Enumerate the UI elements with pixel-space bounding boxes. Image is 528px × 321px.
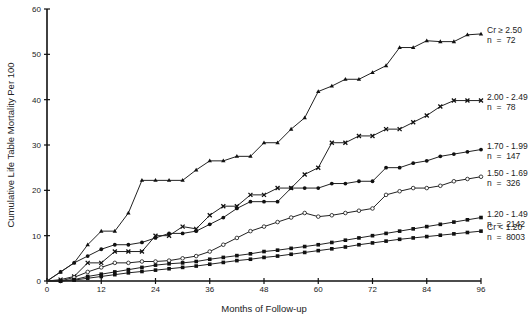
series-label-range: Cr ≥ 2.50 — [487, 25, 522, 35]
square-marker — [316, 249, 320, 253]
series-label-n: n = 8003 — [487, 232, 525, 242]
square-marker — [398, 237, 402, 241]
square-marker — [276, 254, 280, 258]
circle-marker — [316, 186, 320, 190]
triangle-marker — [194, 168, 198, 172]
y-tick-label: 20 — [32, 186, 41, 195]
square-marker — [222, 256, 226, 260]
square-marker — [208, 257, 212, 261]
circle-marker — [208, 222, 212, 226]
open-circle-marker — [127, 261, 131, 265]
series-0 — [47, 32, 483, 281]
x-marker — [316, 166, 320, 170]
open-circle-marker — [249, 229, 253, 233]
series-5 — [47, 229, 483, 282]
triangle-marker — [126, 211, 130, 215]
series-label: Cr ≥ 2.50n = 72 — [487, 25, 522, 45]
x-tick-label: 60 — [314, 285, 323, 294]
series-label: 1.70 - 1.99n = 147 — [487, 141, 528, 161]
circle-marker — [289, 186, 293, 190]
square-marker — [154, 268, 158, 272]
open-circle-marker — [289, 216, 293, 220]
circle-marker — [59, 270, 63, 274]
square-marker — [344, 238, 348, 242]
square-marker — [479, 229, 483, 233]
circle-marker — [411, 161, 415, 165]
square-marker — [181, 266, 185, 270]
x-axis-title: Months of Follow-up — [221, 303, 307, 314]
circle-marker — [330, 182, 334, 186]
circle-marker — [452, 152, 456, 156]
square-marker — [384, 239, 388, 243]
square-marker — [289, 247, 293, 251]
circle-marker — [262, 200, 266, 204]
square-marker — [86, 276, 90, 280]
x-marker — [425, 114, 429, 118]
circle-marker — [72, 261, 76, 265]
series-1 — [47, 99, 483, 282]
circle-marker — [99, 247, 103, 251]
circle-marker — [194, 229, 198, 233]
square-marker — [181, 261, 185, 265]
square-marker — [127, 271, 131, 275]
circle-marker — [181, 232, 185, 236]
y-tick-label: 10 — [32, 232, 41, 241]
open-circle-marker — [479, 175, 483, 179]
x-tick-label: 96 — [477, 285, 486, 294]
series-label-n: n = 147 — [487, 151, 528, 161]
open-circle-marker — [371, 207, 375, 211]
square-marker — [222, 261, 226, 265]
series-label-range: 1.20 - 1.49 — [487, 209, 528, 219]
square-marker — [167, 267, 171, 271]
series-label-range: Cr < 1.20 — [487, 222, 525, 232]
open-circle-marker — [167, 259, 171, 263]
circle-marker — [466, 150, 470, 154]
circle-marker — [371, 179, 375, 183]
y-tick-label: 50 — [32, 50, 41, 59]
open-circle-marker — [303, 211, 307, 215]
open-circle-marker — [344, 211, 348, 215]
circle-marker — [438, 154, 442, 158]
series-label-n: n = 78 — [487, 102, 528, 112]
open-circle-marker — [316, 215, 320, 219]
square-marker — [371, 241, 375, 245]
open-circle-marker — [262, 225, 266, 229]
circle-marker — [221, 216, 225, 220]
circle-marker — [398, 166, 402, 170]
square-marker — [140, 266, 144, 270]
circle-marker — [167, 232, 171, 236]
series-label: 2.00 - 2.49n = 78 — [487, 92, 528, 112]
square-marker — [425, 225, 429, 229]
open-circle-marker — [357, 209, 361, 213]
square-marker — [398, 229, 402, 233]
square-marker — [235, 259, 239, 263]
circle-marker — [303, 186, 307, 190]
y-tick-label: 30 — [32, 141, 41, 150]
square-marker — [262, 250, 266, 254]
square-marker — [262, 256, 266, 260]
square-marker — [439, 223, 443, 227]
circle-marker — [140, 241, 144, 245]
x-tick-label: 12 — [97, 285, 106, 294]
square-marker — [140, 270, 144, 274]
square-marker — [344, 245, 348, 249]
series-3 — [47, 175, 483, 283]
circle-marker — [126, 243, 130, 247]
square-marker — [439, 233, 443, 237]
x-marker — [411, 120, 415, 124]
circle-marker — [86, 254, 90, 258]
open-circle-marker — [86, 270, 90, 274]
x-marker — [438, 104, 442, 108]
open-circle-marker — [235, 236, 239, 240]
series-label-range: 1.70 - 1.99 — [487, 141, 528, 151]
circle-marker — [249, 200, 253, 204]
square-marker — [466, 218, 470, 222]
open-circle-marker — [452, 179, 456, 183]
series-label-range: 1.50 - 1.69 — [487, 168, 528, 178]
open-circle-marker — [99, 266, 103, 270]
y-axis-title: Cumulative Life Table Mortality Per 100 — [5, 62, 16, 227]
x-tick-label: 72 — [368, 285, 377, 294]
chart-canvas: 012243648607284960102030405060 Months of… — [0, 0, 528, 321]
series-label-range: 2.00 - 2.49 — [487, 92, 528, 102]
square-marker — [59, 279, 63, 283]
